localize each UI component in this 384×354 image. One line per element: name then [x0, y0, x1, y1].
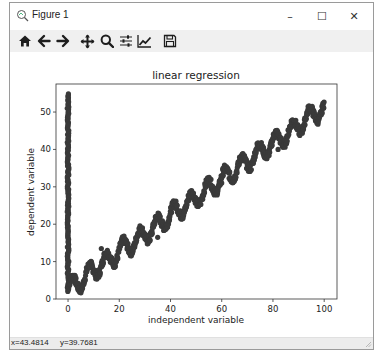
x-axis-label: independent variable	[148, 315, 245, 325]
y-axis-label: dependent variable	[26, 148, 36, 236]
maximize-icon: ☐	[317, 10, 327, 23]
line-chart-icon	[137, 34, 152, 48]
forward-button[interactable]	[54, 32, 71, 50]
window-title: Figure 1	[32, 9, 69, 20]
svg-text:20: 20	[114, 304, 125, 314]
scatter-plot[interactable]: linear regression 020406080100 010203040…	[10, 52, 373, 340]
move-icon	[80, 34, 95, 49]
sliders-icon	[119, 34, 133, 48]
title-bar[interactable]: Figure 1 – ☐ ✕	[10, 3, 373, 29]
home-button[interactable]	[16, 32, 33, 50]
svg-text:0: 0	[46, 294, 51, 304]
home-icon	[18, 34, 32, 48]
svg-text:60: 60	[216, 304, 227, 314]
resize-grip-icon[interactable]	[365, 341, 372, 348]
svg-text:20: 20	[40, 219, 51, 229]
cursor-y-readout: y=39.7681	[60, 338, 98, 347]
close-button[interactable]: ✕	[341, 7, 367, 25]
svg-text:40: 40	[40, 144, 51, 154]
chart-title: linear regression	[152, 69, 240, 81]
navigation-toolbar	[10, 30, 373, 52]
floppy-disk-icon	[163, 34, 177, 48]
magnifier-icon	[100, 34, 114, 48]
save-button[interactable]	[161, 32, 178, 50]
matplotlib-app-icon	[16, 9, 29, 22]
svg-text:100: 100	[316, 304, 332, 314]
figure-window: Figure 1 – ☐ ✕	[9, 2, 374, 350]
pan-button[interactable]	[79, 32, 96, 50]
cursor-x-readout: x=43.4814	[11, 338, 49, 347]
minimize-icon: –	[287, 10, 293, 23]
status-bar: x=43.4814 y=39.7681	[10, 337, 373, 349]
svg-text:10: 10	[40, 257, 51, 267]
close-icon: ✕	[349, 10, 358, 23]
figure-canvas[interactable]: linear regression 020406080100 010203040…	[10, 52, 373, 338]
x-axis-ticks: 020406080100	[65, 299, 332, 314]
data-points	[65, 91, 327, 295]
back-button[interactable]	[35, 32, 52, 50]
zoom-button[interactable]	[98, 32, 115, 50]
svg-text:80: 80	[268, 304, 279, 314]
arrow-right-icon	[56, 34, 70, 48]
svg-text:50: 50	[40, 107, 51, 117]
svg-text:0: 0	[65, 304, 70, 314]
arrow-left-icon	[37, 34, 51, 48]
minimize-button[interactable]: –	[277, 7, 303, 25]
y-axis-ticks: 01020304050	[40, 107, 56, 304]
svg-text:30: 30	[40, 182, 51, 192]
svg-text:40: 40	[165, 304, 176, 314]
maximize-button[interactable]: ☐	[309, 7, 335, 25]
edit-axis-button[interactable]	[136, 32, 153, 50]
subplots-button[interactable]	[117, 32, 134, 50]
